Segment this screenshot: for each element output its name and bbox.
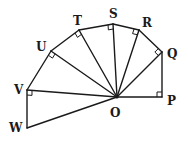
right-angle-marker-V — [27, 90, 32, 95]
segment-QR — [139, 30, 162, 52]
point-labels: OPQRSTUVW — [8, 7, 177, 135]
segment-OS — [113, 24, 117, 97]
segment-RS — [113, 24, 139, 30]
center-point-O — [115, 95, 118, 98]
label-S: S — [109, 7, 118, 21]
label-V: V — [13, 83, 24, 97]
label-T: T — [73, 14, 82, 28]
label-O: O — [110, 106, 120, 120]
right-angle-markers — [27, 25, 162, 97]
label-Q: Q — [167, 47, 177, 61]
right-angle-marker-P — [157, 92, 162, 97]
label-U: U — [36, 40, 47, 54]
segment-UV — [27, 51, 51, 90]
right-angle-marker-Q — [155, 49, 159, 56]
segments — [27, 24, 162, 128]
label-W: W — [8, 121, 23, 135]
segment-OU — [51, 51, 117, 97]
label-R: R — [142, 16, 153, 30]
label-P: P — [167, 94, 176, 108]
segment-OT — [79, 30, 117, 97]
segment-OW — [27, 97, 117, 128]
right-triangle-spiral-diagram: OPQRSTUVW — [0, 0, 188, 141]
segment-OV — [27, 90, 117, 97]
